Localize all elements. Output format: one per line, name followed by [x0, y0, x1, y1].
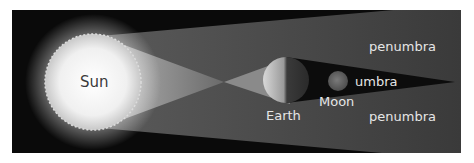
- umbra-label: umbra: [355, 75, 397, 88]
- earth-icon: [263, 57, 309, 103]
- eclipse-diagram: [0, 0, 474, 163]
- moon-icon: [328, 71, 348, 91]
- moon-label: Moon: [319, 95, 354, 108]
- penumbra-bottom-label: penumbra: [369, 110, 436, 123]
- penumbra-top-label: penumbra: [369, 40, 436, 53]
- sun-label: Sun: [80, 75, 109, 90]
- earth-label: Earth: [266, 109, 301, 122]
